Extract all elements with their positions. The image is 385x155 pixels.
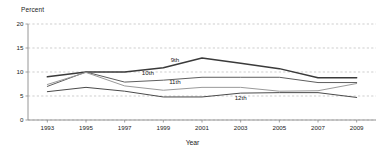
x-tick-label: 1995 xyxy=(79,124,93,131)
x-tick-label: 2007 xyxy=(311,124,325,131)
y-tick-label: 10 xyxy=(17,68,24,75)
x-tick-label: 1999 xyxy=(156,124,170,131)
series-label-12th: 12th xyxy=(235,94,248,101)
y-tick-label: 5 xyxy=(20,92,24,99)
series-label-10th: 10th xyxy=(142,69,155,76)
y-tick-label: 0 xyxy=(20,116,24,123)
y-tick-label: 20 xyxy=(17,20,24,27)
x-tick-label: 1993 xyxy=(40,124,54,131)
x-tick-label: 1997 xyxy=(118,124,132,131)
x-tick-label: 2003 xyxy=(234,124,248,131)
series-line-10th xyxy=(47,72,356,86)
series-label-9th: 9th xyxy=(171,56,180,63)
x-axis-title: Year xyxy=(0,139,385,146)
plot-area: 0510152019931995199719992001200320052007… xyxy=(0,0,385,155)
x-tick-label: 2009 xyxy=(350,124,364,131)
x-tick-label: 2001 xyxy=(195,124,209,131)
y-tick-label: 15 xyxy=(17,44,24,51)
x-tick-label: 2005 xyxy=(272,124,286,131)
line-chart: Percent 05101520199319951997199920012003… xyxy=(0,0,385,155)
series-label-11th: 11th xyxy=(169,78,181,85)
